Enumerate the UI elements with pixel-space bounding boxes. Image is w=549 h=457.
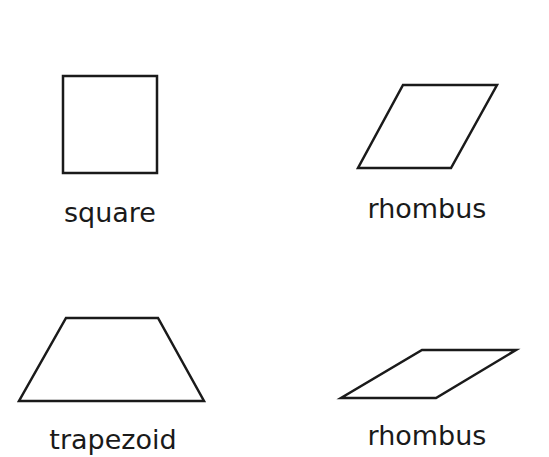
square-label: square	[64, 197, 156, 228]
trapezoid-shape	[19, 318, 204, 401]
shape-rhombus-1: rhombus	[358, 85, 497, 224]
rhombus-shape	[341, 350, 516, 398]
rhombus-shape	[358, 85, 497, 168]
rhombus-label: rhombus	[368, 420, 487, 451]
shape-rhombus-2: rhombus	[341, 350, 516, 451]
shape-trapezoid: trapezoid	[19, 318, 204, 455]
shapes-diagram: square rhombus trapezoid rhombus	[0, 0, 549, 457]
shape-square: square	[63, 76, 157, 228]
rhombus-label: rhombus	[368, 193, 487, 224]
square-shape	[63, 76, 157, 173]
trapezoid-label: trapezoid	[49, 424, 176, 455]
